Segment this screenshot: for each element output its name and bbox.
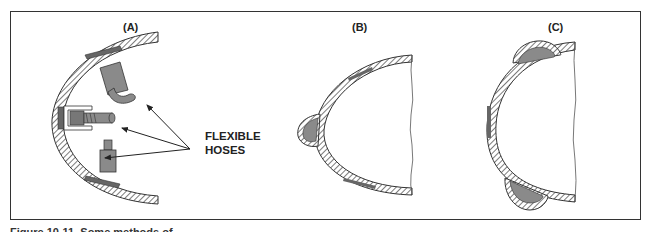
panel-b — [298, 55, 413, 195]
callout-line-1: FLEXIBLE — [205, 129, 261, 143]
panel-b-label: (B) — [352, 21, 367, 33]
figure-caption: Figure 10-11. Some methods of — [10, 226, 173, 232]
diagram-artwork — [0, 0, 651, 232]
hose-fitting-middle-icon — [58, 106, 115, 130]
panel-c — [487, 41, 576, 210]
hose-fitting-bottom-icon — [100, 140, 116, 172]
panel-a — [52, 32, 190, 204]
panel-c-label: (C) — [548, 21, 563, 33]
panel-a-label: (A) — [123, 21, 138, 33]
callout-arrows — [105, 105, 190, 158]
flexible-hoses-callout: FLEXIBLE HOSES — [205, 129, 261, 157]
hose-fitting-top-icon — [100, 62, 135, 103]
callout-line-2: HOSES — [205, 143, 261, 157]
